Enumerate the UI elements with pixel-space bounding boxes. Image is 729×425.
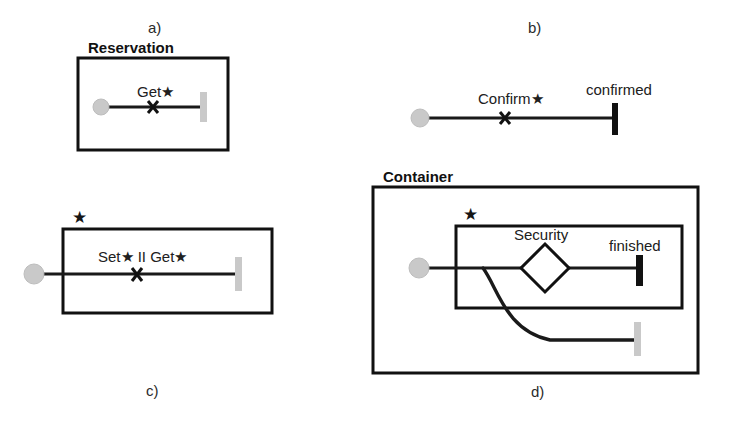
panel-d: d) Container ★ Security finished — [373, 168, 698, 400]
panel-d-security-decision-diamond — [521, 244, 569, 292]
panel-d-initial-state-dot — [409, 258, 429, 278]
panel-b-initial-state-dot — [411, 109, 429, 127]
panel-c-region-marker: ★ — [72, 208, 87, 227]
panel-d-container-title: Container — [383, 168, 453, 185]
panel-d-region-marker: ★ — [463, 205, 478, 224]
panel-c-light-bar-terminator — [235, 257, 242, 291]
panel-letter-d: d) — [531, 383, 544, 400]
panel-d-decision-label: Security — [514, 226, 569, 243]
diagram-canvas: a) Reservation Get★ b) Confirm★ conf — [0, 0, 729, 425]
panel-b-dark-bar-terminator — [612, 103, 618, 135]
panel-d-dark-bar-terminator — [636, 255, 643, 286]
panel-c-transition-label: Set★ II Get★ — [98, 248, 187, 265]
panel-c: c) ★ Set★ II Get★ — [24, 208, 272, 399]
panel-c-initial-state-dot — [24, 264, 44, 284]
panel-a-initial-state-dot — [93, 99, 109, 115]
panel-d-light-bar-terminator — [634, 322, 641, 356]
figure-root: a) Reservation Get★ b) Confirm★ conf — [0, 0, 729, 425]
panel-a: a) Reservation Get★ — [78, 19, 228, 150]
panel-letter-c: c) — [146, 382, 159, 399]
panel-a-box-title: Reservation — [88, 39, 174, 56]
panel-a-light-bar-terminator — [200, 92, 207, 122]
panel-b-end-label: confirmed — [586, 81, 652, 98]
panel-a-transition-label: Get★ — [137, 83, 174, 100]
panel-b: b) Confirm★ confirmed — [411, 19, 652, 135]
panel-d-end-label: finished — [609, 237, 661, 254]
panel-letter-b: b) — [528, 19, 541, 36]
panel-b-transition-label: Confirm★ — [478, 90, 544, 107]
panel-letter-a: a) — [148, 19, 161, 36]
